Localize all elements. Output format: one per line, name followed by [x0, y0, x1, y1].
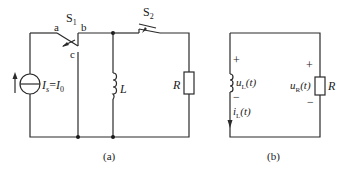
- s1-label: S1: [66, 11, 77, 27]
- resistor-r: [184, 72, 194, 94]
- ur-minus: −: [307, 95, 314, 109]
- circuit-a: Is=I0 S1 a b c L: [13, 5, 195, 163]
- switch-s2: [113, 24, 160, 33]
- resistor-b: [315, 77, 325, 95]
- ul-plus: +: [233, 53, 240, 67]
- node-a-label: a: [54, 21, 59, 33]
- current-arrow-icon: [228, 120, 233, 128]
- ul-label: uL(t): [236, 76, 257, 91]
- inductor-label: L: [119, 82, 127, 96]
- caption-a: (a): [103, 150, 116, 163]
- current-source: [13, 72, 41, 94]
- ur-plus: +: [306, 58, 313, 72]
- circuit-b: + − uL(t) iL(t) + − uR(t) R (b): [228, 33, 337, 163]
- source-label: Is=I0: [41, 78, 64, 94]
- node-c-label: c: [70, 48, 75, 60]
- il-label: iL(t): [233, 105, 251, 120]
- switch-s1: [57, 33, 113, 137]
- caption-b: (b): [267, 150, 280, 163]
- s2-label: S2: [143, 5, 154, 21]
- ur-label: uR(t): [290, 79, 311, 94]
- ul-minus: −: [233, 90, 240, 104]
- wire-right: [160, 33, 189, 72]
- resistor-label-a: R: [172, 78, 181, 92]
- node-b-label: b: [81, 21, 87, 33]
- inductor-l: [76, 31, 117, 139]
- resistor-label-b: R: [327, 79, 336, 93]
- circuit-figure: Is=I0 S1 a b c L: [0, 0, 344, 170]
